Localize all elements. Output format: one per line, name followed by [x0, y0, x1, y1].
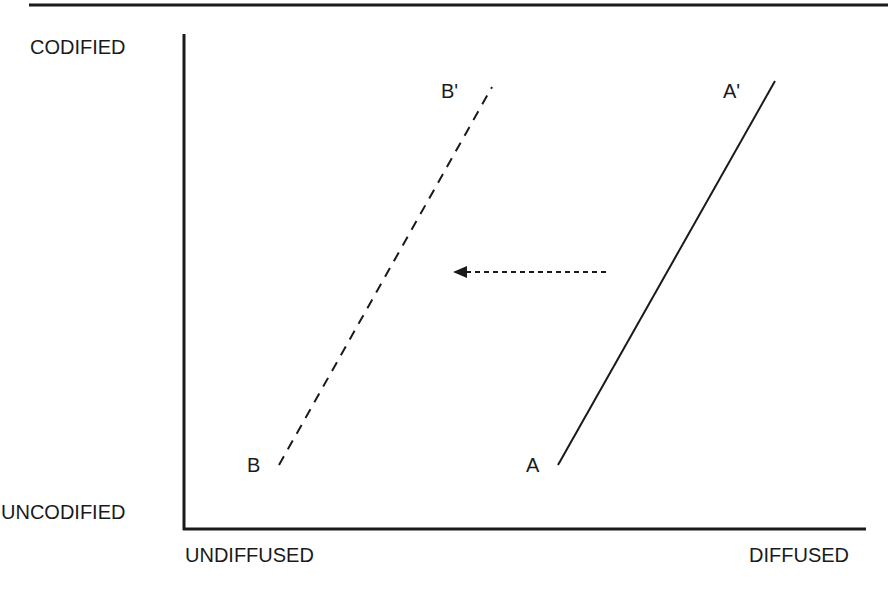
x-axis-left-label: UNDIFFUSED	[185, 545, 314, 565]
point-b-label: B	[247, 455, 260, 475]
y-axis-bottom-label: UNCODIFIED	[1, 502, 125, 522]
point-a-label: A	[526, 455, 539, 475]
curve-a-line	[558, 81, 775, 465]
arrow-left-icon	[453, 266, 467, 278]
curve-b-line	[279, 87, 492, 465]
point-b-prime-label: B'	[441, 81, 458, 101]
point-a-prime-label: A'	[723, 81, 740, 101]
y-axis-top-label: CODIFIED	[30, 37, 126, 57]
x-axis-right-label: DIFFUSED	[749, 545, 849, 565]
